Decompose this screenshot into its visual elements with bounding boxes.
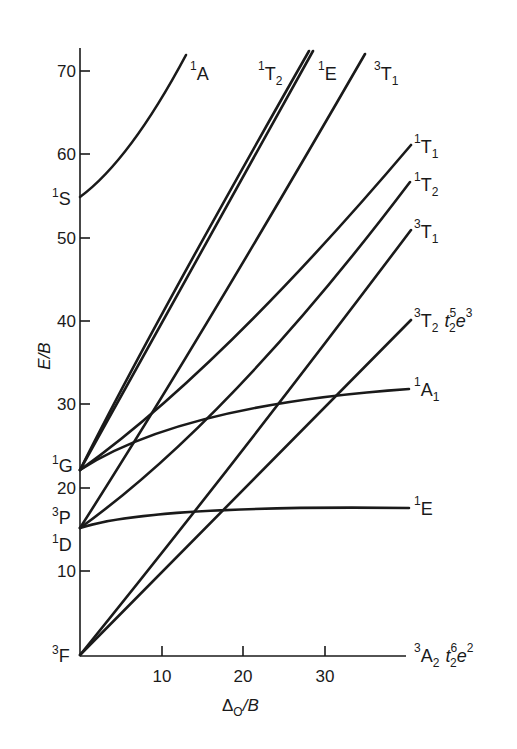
y-tick-label: 20 — [57, 479, 76, 498]
curve-1T1 — [80, 145, 411, 470]
energy-curves — [80, 51, 411, 655]
term-3F: 3F — [52, 643, 70, 666]
y-tick-label: 40 — [57, 312, 76, 331]
x-axis-delta: Δ — [222, 696, 233, 715]
x-tick-label: 30 — [316, 667, 335, 686]
term-1G: 1G — [52, 453, 73, 476]
curve-1E-upper — [80, 51, 313, 470]
term-1D: 1D — [52, 532, 72, 555]
label-1A: 1A — [190, 59, 209, 84]
y-axis-title: E/B — [35, 342, 54, 369]
label-1E-top: 1E — [318, 59, 337, 84]
x-tick-label: 10 — [153, 667, 172, 686]
y-tick-label: 70 — [57, 62, 76, 81]
label-3T2-config: 3T2t52e3 — [414, 306, 473, 335]
free-ion-terms: 1S 1G 3P 1D 3F — [52, 186, 73, 666]
term-3P: 3P — [52, 505, 71, 528]
label-3T1: 3T1 — [414, 217, 439, 246]
end-labels: 1A 1T2 1E 3T1 1T1 1T2 3T1 3T2t52e3 1A1 1… — [190, 59, 474, 670]
term-1S: 1S — [52, 186, 71, 209]
label-1A1: 1A1 — [414, 375, 440, 404]
label-3A2-config: 3A2t62e2 — [414, 641, 474, 670]
curve-1E-lower — [80, 508, 409, 528]
curve-3T1-lower — [80, 230, 411, 655]
x-tick-label: 20 — [234, 667, 253, 686]
x-tick-labels: 10 20 30 — [153, 667, 335, 686]
curve-3T2 — [80, 320, 411, 655]
curve-1A1 — [80, 389, 409, 470]
y-tick-label: 30 — [57, 395, 76, 414]
label-1T1: 1T1 — [414, 132, 439, 161]
x-axis-sub: O — [233, 705, 242, 719]
tanabe-sugano-diagram: 70 60 50 40 30 20 10 10 20 30 E/B ΔO/B 1… — [0, 0, 517, 749]
curve-1T2-lower — [80, 182, 410, 528]
label-1E: 1E — [414, 494, 433, 519]
axes — [80, 48, 406, 656]
x-axis-title: ΔO/B — [222, 696, 259, 719]
x-axis-tail: /B — [242, 696, 259, 715]
label-1T2: 1T2 — [414, 170, 439, 199]
curve-1A — [80, 55, 186, 197]
y-tick-label: 50 — [57, 229, 76, 248]
label-1T2-top: 1T2 — [258, 59, 283, 88]
y-tick-label: 60 — [57, 145, 76, 164]
y-tick-label: 10 — [57, 562, 76, 581]
y-tick-labels: 70 60 50 40 30 20 10 — [57, 62, 76, 581]
label-3T1-top: 3T1 — [374, 59, 399, 88]
